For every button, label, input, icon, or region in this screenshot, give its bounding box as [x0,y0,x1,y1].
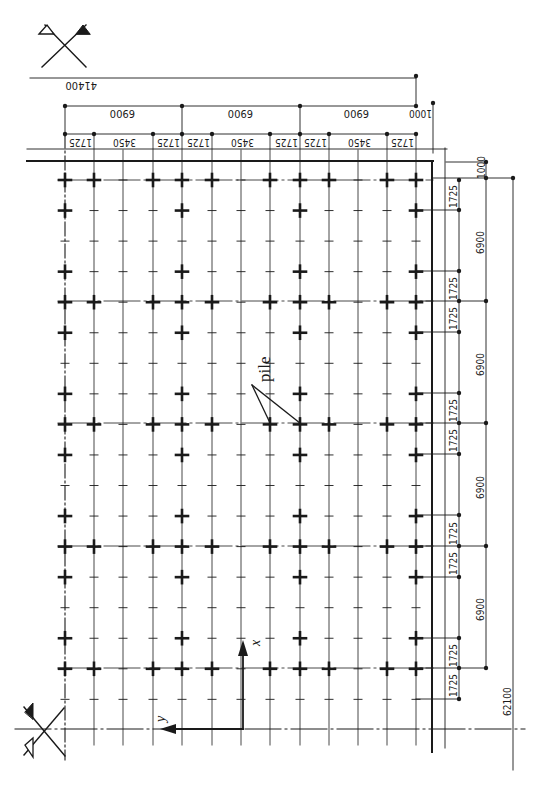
dim-top-sub-3: 1725 [157,137,180,148]
dim-right-overall: 62100 [502,687,513,716]
top-dimension-labels: 41400 6900 6900 6900 1000 1725 3450 1725… [66,79,432,148]
dim-right-sub-5: 1725 [448,429,459,452]
right-dimension-chain [416,148,515,770]
section-marker-bottom-icon [24,703,65,757]
pile-label: pile [255,357,274,383]
axis-x-label: x [248,639,263,647]
dim-top-sub-9: 1725 [391,137,414,148]
dim-right-sub-4: 1725 [448,399,459,422]
dim-top-bay-2: 6900 [228,107,253,120]
dim-top-sub-8: 3450 [348,137,371,148]
dim-right-sub-1: 1725 [448,185,459,208]
dim-right-bay-1: 6900 [475,231,486,254]
dim-right-offset: 1000 [476,156,487,179]
axis-y-label: y [153,715,168,724]
dim-top-sub-1: 1725 [69,137,92,148]
dim-right-sub-3: 1725 [448,307,459,330]
dim-right-sub-7: 1725 [448,552,459,575]
dim-top-sub-5: 3450 [231,137,254,148]
dim-top-sub-2: 3450 [113,137,136,148]
dim-top-sub-7: 1725 [304,137,327,148]
dim-top-sub-4: 1725 [187,137,210,148]
pile-leader-lines [252,385,300,423]
dim-right-sub-6: 1725 [448,522,459,545]
dim-top-sub-6: 1725 [275,137,298,148]
right-dimension-labels: 1000 1725 1725 1725 1725 1725 1725 1725 … [448,156,513,716]
dim-top-bay-4: 1000 [409,108,432,119]
secondary-pile-ticks [61,180,420,699]
dim-right-sub-9: 1725 [448,674,459,697]
dim-right-bay-4: 6900 [475,598,486,621]
dim-right-bay-3: 6900 [475,476,486,499]
column-grid-lines [65,134,416,760]
dim-right-bay-2: 6900 [475,353,486,376]
dim-right-sub-8: 1725 [448,644,459,667]
section-marker-top-icon [39,25,90,67]
pile-layout-drawing: 41400 6900 6900 6900 1000 1725 3450 1725… [0,0,541,785]
dim-right-sub-2: 1725 [448,277,459,300]
dim-overall-top: 41400 [66,79,97,92]
local-axes [160,640,248,734]
dim-top-bay-3: 6900 [344,107,369,120]
dim-top-bay-1: 6900 [110,107,135,120]
